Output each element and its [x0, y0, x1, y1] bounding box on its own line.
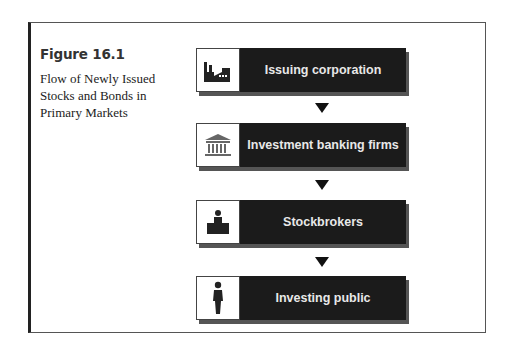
figure-number: Figure 16.1 [40, 46, 125, 62]
step-stockbrokers: Stockbrokers [196, 200, 406, 244]
step-label: Investment banking firms [240, 123, 406, 167]
step-investing-public: Investing public [196, 276, 406, 320]
person-icon [196, 276, 240, 320]
bank-building-icon [196, 123, 240, 167]
down-arrow-icon [315, 180, 329, 190]
step-investment-banking-firms: Investment banking firms [196, 123, 406, 167]
step-label: Stockbrokers [240, 200, 406, 244]
figure-title: Flow of Newly Issued Stocks and Bonds in… [40, 70, 160, 121]
down-arrow-icon [315, 103, 329, 113]
step-label: Issuing corporation [240, 48, 406, 92]
step-label: Investing public [240, 276, 406, 320]
person-at-desk-icon [196, 200, 240, 244]
factory-icon [196, 48, 240, 92]
down-arrow-icon [315, 257, 329, 267]
step-issuing-corporation: Issuing corporation [196, 48, 406, 92]
